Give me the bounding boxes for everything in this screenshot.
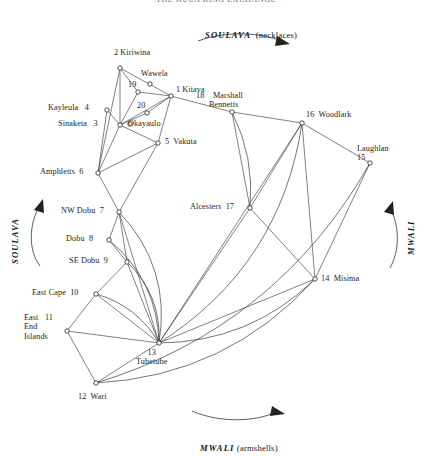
node-label-alcesters: Alcesters 17 bbox=[190, 202, 234, 211]
soulava-left-arrowhead bbox=[34, 199, 44, 213]
node-kiriwina[interactable] bbox=[118, 66, 122, 70]
curved-edges-layer bbox=[96, 112, 370, 383]
mwali-bottom-label: MWALI (armshells) bbox=[187, 433, 278, 456]
mwali-right-arc bbox=[389, 206, 397, 268]
curved-edge-8-13 bbox=[109, 240, 159, 343]
edge-16-13 bbox=[159, 123, 302, 343]
mwali-right-arc-group bbox=[384, 201, 397, 268]
kula-ring-diagram: THE KULA RING EXCHANGE SOULAVA (necklace… bbox=[0, 0, 427, 456]
edge-7-13 bbox=[119, 212, 159, 343]
node-vakuta[interactable] bbox=[156, 141, 160, 145]
node-label-se-dobu: SE Dobu 9 bbox=[69, 256, 108, 265]
node-woodlark[interactable] bbox=[300, 121, 304, 125]
edge-20-1 bbox=[147, 96, 171, 113]
edge-11-13 bbox=[67, 331, 159, 343]
node-label-amphletts: Amphletts 6 bbox=[40, 167, 84, 176]
node-label-vakuta: 5 Vakuta bbox=[165, 137, 197, 146]
edge-11-12 bbox=[67, 331, 96, 383]
soulava-left-arc-group bbox=[31, 199, 44, 266]
node-label-east-cape: East Cape 10 bbox=[32, 288, 79, 297]
edge-5-6 bbox=[98, 143, 158, 173]
node-label-kayleula: Kayleula 4 bbox=[48, 103, 89, 112]
mwali-bottom-arrowhead bbox=[270, 406, 285, 416]
node-label-19: 19 bbox=[128, 80, 136, 89]
edge-14-16 bbox=[302, 123, 315, 279]
node-label-laughlan: Laughlan 15 bbox=[357, 144, 389, 163]
node-east-cape[interactable] bbox=[94, 292, 98, 296]
mwali-right-label: MWALI bbox=[406, 221, 416, 255]
node-sinaketa[interactable] bbox=[118, 123, 122, 127]
node-label-woodlark: 16 Woodlark bbox=[306, 110, 351, 119]
node-label-misima: 14 Misima bbox=[321, 274, 359, 283]
edge-10-11 bbox=[67, 294, 96, 331]
mwali-bottom-arc bbox=[192, 411, 276, 420]
edge-16-18 bbox=[232, 112, 302, 123]
edge-9-10 bbox=[96, 262, 127, 294]
node-amphletts[interactable] bbox=[96, 171, 100, 175]
node-19[interactable] bbox=[136, 90, 140, 94]
edge-16-17 bbox=[250, 123, 302, 208]
node-tubetube[interactable] bbox=[157, 341, 161, 345]
node-se-dobu[interactable] bbox=[125, 260, 129, 264]
soulava-top-label: SOULAVA (necklaces) bbox=[192, 20, 297, 50]
node-label-20: 20 bbox=[137, 101, 145, 110]
edge-5-7 bbox=[119, 143, 158, 212]
node-label-tubetube: 13 Tubetube bbox=[136, 348, 167, 367]
network-graph-canvas bbox=[0, 0, 427, 456]
mwali-right-arrowhead bbox=[384, 201, 394, 215]
soulava-left-label: SOULAVA bbox=[10, 218, 20, 264]
node-kayleula[interactable] bbox=[105, 108, 109, 112]
node-kitava[interactable] bbox=[169, 94, 173, 98]
soulava-left-arc bbox=[31, 207, 40, 266]
node-label-sinaketa: Sinaketa 3 bbox=[58, 119, 98, 128]
node-label-east-end-islands: East 11 End Islands bbox=[24, 313, 53, 341]
node-label-okayaulo: Okayaulo bbox=[128, 119, 161, 128]
node-label-marshall-bennetts: 18 Marshall Bennetts bbox=[196, 91, 243, 110]
node-wawela[interactable] bbox=[148, 82, 152, 86]
edge-3-4 bbox=[107, 110, 120, 125]
edge-14-17 bbox=[250, 208, 315, 279]
node-marshall-bennetts[interactable] bbox=[230, 110, 234, 114]
mwali-bottom-arc-group bbox=[192, 406, 285, 420]
node-nw-dobu[interactable] bbox=[117, 210, 121, 214]
node-label-wawela: Wawela bbox=[141, 69, 168, 78]
node-alcesters[interactable] bbox=[248, 206, 252, 210]
node-east-end-islands[interactable] bbox=[65, 329, 69, 333]
node-label-dobu: Dobu 8 bbox=[66, 234, 93, 243]
edge-2-6 bbox=[98, 68, 120, 173]
node-label-nw-dobu: NW Dobu 7 bbox=[61, 206, 104, 215]
edge-19-1 bbox=[138, 92, 171, 96]
node-misima[interactable] bbox=[313, 277, 317, 281]
edge-17-18 bbox=[232, 112, 250, 208]
node-wari[interactable] bbox=[94, 381, 98, 385]
curved-edge-14-12 bbox=[96, 279, 315, 383]
edge-13-14 bbox=[159, 279, 315, 343]
node-label-wari: 12 Wari bbox=[78, 392, 107, 401]
node-dobu[interactable] bbox=[107, 238, 111, 242]
edge-7-8 bbox=[109, 212, 119, 240]
edge-15-14 bbox=[315, 163, 370, 279]
node-20[interactable] bbox=[145, 111, 149, 115]
node-label-kiriwina: 2 Kiriwina bbox=[114, 48, 150, 57]
